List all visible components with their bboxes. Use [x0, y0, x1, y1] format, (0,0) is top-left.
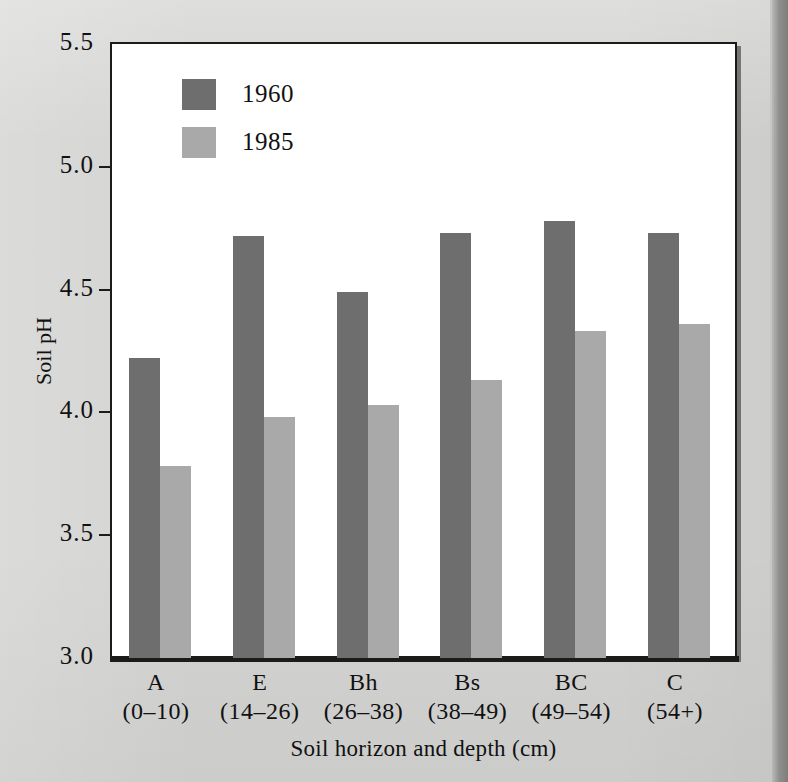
bar-Bh-1960 — [337, 292, 368, 658]
bar-A-1960 — [129, 358, 160, 658]
bar-BC-1985 — [575, 331, 606, 658]
y-axis-tick-label: 5.0 — [28, 151, 94, 179]
y-axis-tick-label: 3.0 — [28, 642, 94, 670]
y-axis-tick — [99, 534, 112, 536]
x-axis-depth-label: (38–49) — [416, 696, 520, 726]
page-edge-band — [772, 0, 788, 782]
bar-BC-1960 — [544, 221, 575, 658]
y-axis-title: Soil pH — [31, 281, 57, 421]
x-axis-group-BC: BC(49–54) — [519, 668, 623, 726]
y-axis-tick-label: 3.5 — [28, 519, 94, 547]
y-axis-tick — [99, 166, 112, 168]
legend-label-1985: 1985 — [242, 128, 294, 156]
bar-C-1985 — [679, 324, 710, 658]
legend: 1960 1985 — [182, 70, 294, 166]
x-axis-group-Bh: Bh(26–38) — [312, 668, 416, 726]
x-axis-group-E: E(14–26) — [208, 668, 312, 726]
x-axis-horizon-label: E — [208, 668, 312, 696]
x-axis-title: Soil horizon and depth (cm) — [110, 736, 737, 762]
x-axis-horizon-label: A — [104, 668, 208, 696]
bar-Bs-1985 — [471, 380, 502, 658]
legend-label-1960: 1960 — [242, 80, 294, 108]
bar-Bh-1985 — [368, 405, 399, 658]
y-axis-tick — [99, 411, 112, 413]
x-axis-depth-label: (26–38) — [312, 696, 416, 726]
y-axis-tick — [99, 289, 112, 291]
x-axis-depth-label: (0–10) — [104, 696, 208, 726]
x-axis-depth-label: (49–54) — [519, 696, 623, 726]
legend-item-1960: 1960 — [182, 70, 294, 118]
x-axis-horizon-label: Bh — [312, 668, 416, 696]
x-axis-horizon-label: C — [623, 668, 727, 696]
plot-frame-shadow — [737, 46, 741, 662]
x-axis-depth-label: (14–26) — [208, 696, 312, 726]
x-axis-group-A: A(0–10) — [104, 668, 208, 726]
x-axis-horizon-label: Bs — [416, 668, 520, 696]
legend-swatch-1985 — [182, 127, 216, 158]
bar-E-1985 — [264, 417, 295, 658]
y-axis-tick-label: 5.5 — [28, 28, 94, 56]
x-axis-group-Bs: Bs(38–49) — [416, 668, 520, 726]
legend-swatch-1960 — [182, 79, 216, 110]
x-axis-depth-label: (54+) — [623, 696, 727, 726]
bar-C-1960 — [648, 233, 679, 658]
x-axis-tick-labels: A(0–10)E(14–26)Bh(26–38)Bs(38–49)BC(49–5… — [110, 668, 737, 738]
x-axis-group-C: C(54+) — [623, 668, 727, 726]
bar-E-1960 — [233, 236, 264, 658]
bar-A-1985 — [160, 466, 191, 658]
x-axis-horizon-label: BC — [519, 668, 623, 696]
bar-Bs-1960 — [440, 233, 471, 658]
legend-item-1985: 1985 — [182, 118, 294, 166]
figure-page: 3.03.54.04.55.05.5 Soil pH 1960 1985 A(0… — [0, 0, 788, 782]
